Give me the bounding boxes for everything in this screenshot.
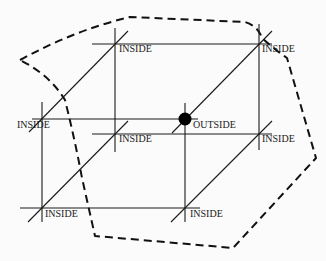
label-p7: INSIDE — [45, 208, 78, 219]
diagram-canvas: INSIDE INSIDE INSIDE OUTSIDE INSIDE INSI… — [0, 0, 326, 261]
label-p3: INSIDE — [17, 119, 50, 130]
grid-line — [29, 31, 128, 132]
lattice-diagram: INSIDE INSIDE INSIDE OUTSIDE INSIDE INSI… — [0, 0, 326, 261]
grid-line — [171, 121, 272, 222]
label-p1: INSIDE — [119, 43, 152, 54]
outside-point-dot — [179, 113, 192, 126]
label-p6: INSIDE — [262, 133, 295, 144]
label-p5: INSIDE — [119, 133, 152, 144]
grid-line — [28, 121, 128, 222]
label-p8: INSIDE — [190, 208, 223, 219]
label-p2: INSIDE — [262, 43, 295, 54]
label-p4: OUTSIDE — [193, 119, 236, 130]
